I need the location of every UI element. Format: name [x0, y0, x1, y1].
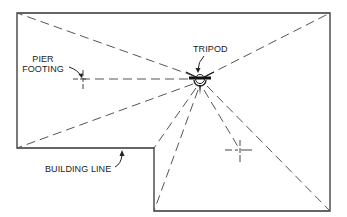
sight-line-pier-2: [204, 90, 240, 150]
pier-footing-marker-1: [73, 70, 86, 89]
sight-line-bottom-left: [154, 90, 198, 211]
pier-footing-arrowhead: [79, 74, 84, 79]
tripod-leader: [198, 56, 204, 70]
building-outline: [17, 13, 330, 211]
building-line-label: BUILDING LINE: [45, 164, 111, 174]
leader-arrows: [69, 56, 204, 167]
building-line-leader: [115, 155, 122, 167]
building-line-arrowhead: [120, 150, 125, 156]
tripod-label: TRIPOD: [193, 44, 228, 54]
pier-footing-marker-2: [225, 140, 252, 162]
pier-footing-label-line1: PIER: [18, 54, 68, 64]
sight-line-bottom-right: [207, 86, 330, 211]
tripod-arrowhead: [196, 68, 201, 73]
layout-diagram: TRIPOD PIER FOOTING BUILDING LINE: [0, 0, 347, 217]
tripod-icon: [186, 72, 214, 95]
sight-lines: [17, 13, 330, 211]
pier-footing-label-line2: FOOTING: [18, 64, 68, 74]
sight-line-left-bottom: [17, 84, 193, 148]
sight-line-inner-corner: [154, 88, 196, 148]
pier-footing-label: PIER FOOTING: [18, 54, 68, 74]
diagram-svg: [0, 0, 347, 217]
